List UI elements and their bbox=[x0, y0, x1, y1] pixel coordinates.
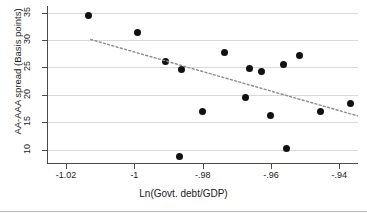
gridline bbox=[47, 95, 358, 96]
y-axis-tick bbox=[42, 150, 47, 151]
x-axis-tick-label: -1.02 bbox=[46, 170, 86, 180]
plot-area bbox=[47, 6, 358, 163]
data-point bbox=[246, 65, 253, 72]
y-axis-title: AA-AAA spread (Basis points) bbox=[12, 0, 23, 147]
x-axis-tick-label: -.96 bbox=[251, 170, 291, 180]
x-axis-tick-label: -.98 bbox=[183, 170, 223, 180]
data-point bbox=[280, 61, 287, 68]
y-axis-tick-label: 25 bbox=[22, 55, 32, 77]
y-axis-tick bbox=[42, 122, 47, 123]
x-axis-title: Ln(Govt. debt/GDP) bbox=[0, 188, 367, 199]
y-axis-tick-label: 20 bbox=[22, 83, 32, 105]
y-axis-tick bbox=[42, 67, 47, 68]
y-axis-tick bbox=[42, 95, 47, 96]
y-axis-tick bbox=[42, 40, 47, 41]
data-point bbox=[134, 29, 141, 36]
y-axis-tick bbox=[42, 13, 47, 14]
y-axis-tick-label: 10 bbox=[22, 138, 32, 160]
x-axis-tick bbox=[271, 164, 272, 169]
gridline bbox=[47, 40, 358, 41]
y-axis-line bbox=[47, 6, 48, 164]
x-axis-tick bbox=[339, 164, 340, 169]
y-axis-tick-label: 15 bbox=[22, 110, 32, 132]
x-axis-tick bbox=[134, 164, 135, 169]
gridline bbox=[47, 67, 358, 68]
x-axis-tick bbox=[66, 164, 67, 169]
y-axis-tick-label: 35 bbox=[22, 1, 32, 23]
scatter-plot-figure: 101520253035 -1.02-1-.98-.96-.94 AA-AAA … bbox=[0, 0, 367, 213]
gridline bbox=[47, 122, 358, 123]
y-axis-tick-label: 30 bbox=[22, 28, 32, 50]
data-point bbox=[242, 94, 249, 101]
data-point bbox=[178, 66, 185, 73]
data-point bbox=[296, 52, 303, 59]
data-point bbox=[283, 145, 290, 152]
x-axis-tick-label: -.94 bbox=[319, 170, 359, 180]
x-axis-tick-label: -1 bbox=[114, 170, 154, 180]
gridline bbox=[47, 150, 358, 151]
gridline bbox=[47, 13, 358, 14]
x-axis-tick bbox=[203, 164, 204, 169]
figure-bottom-border bbox=[0, 211, 367, 212]
data-point bbox=[347, 100, 354, 107]
